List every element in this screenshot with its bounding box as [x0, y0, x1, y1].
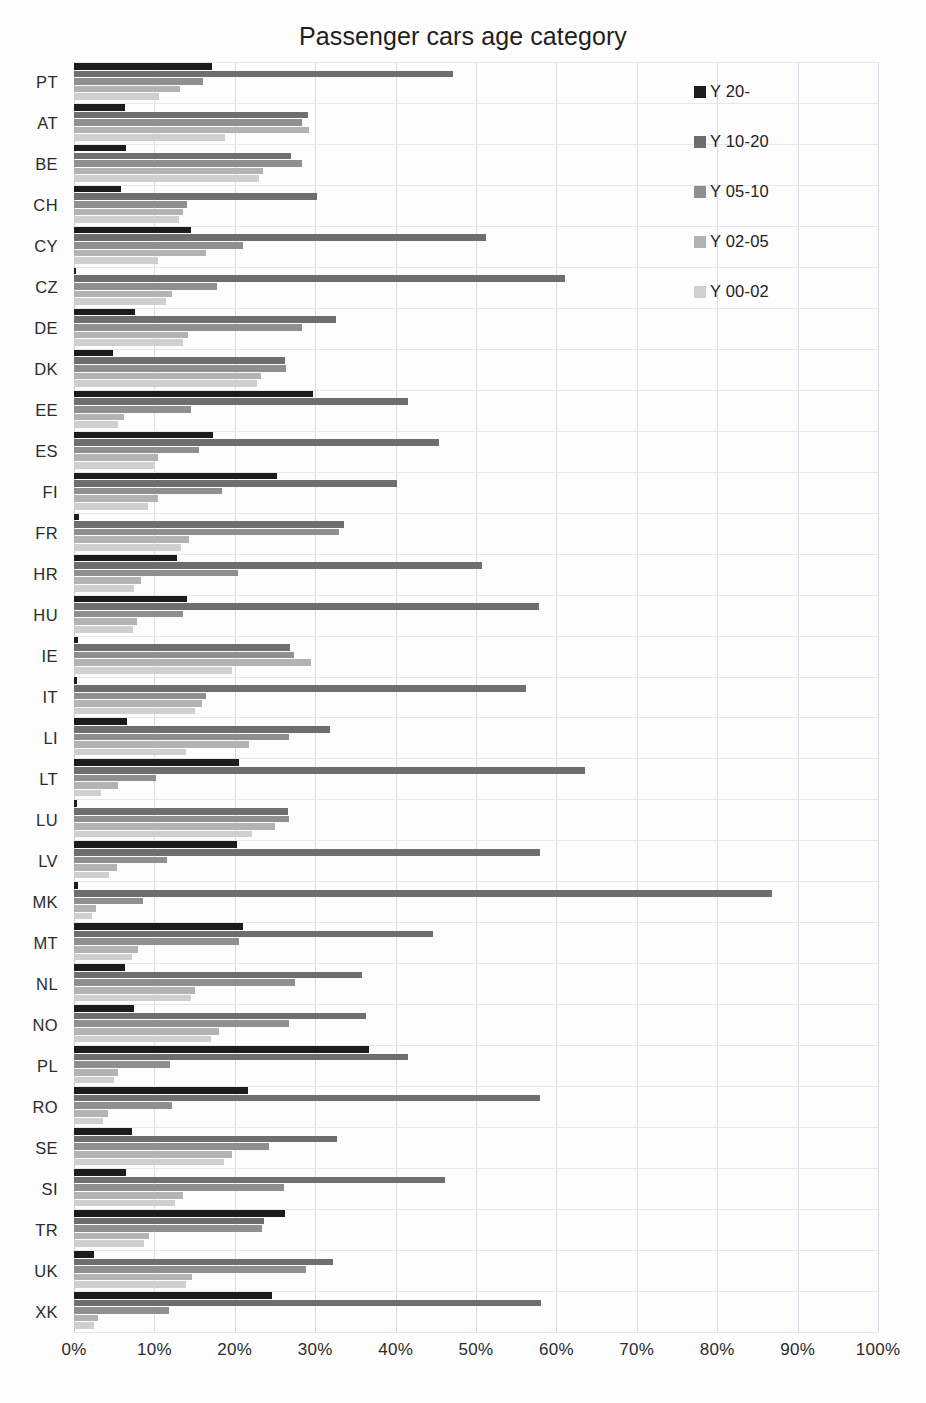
bar-HR-Y-10-20: [74, 562, 482, 569]
y-tick-label-LU: LU: [36, 810, 58, 829]
legend-item-Y-02-05[interactable]: Y 02-05: [694, 233, 874, 250]
bar-PL-Y-02-05: [74, 1069, 118, 1076]
bar-group: [74, 390, 878, 431]
bar-NO-Y-02-05: [74, 1028, 219, 1035]
bar-group: [74, 1291, 878, 1332]
bar-DE-Y-00-02: [74, 339, 183, 346]
bar-DK-Y-00-02: [74, 380, 257, 387]
x-tick-label-100%: 100%: [856, 1340, 901, 1360]
bar-group: [74, 431, 878, 472]
bar-TR-Y-10-20: [74, 1218, 264, 1225]
y-tick-label-SI: SI: [42, 1179, 58, 1198]
bar-group: [74, 595, 878, 636]
x-gridline: [878, 62, 879, 1332]
bar-group: [74, 1045, 878, 1086]
bar-XK-Y-02-05: [74, 1315, 98, 1322]
bar-DK-Y-20-: [74, 350, 113, 357]
y-tick-label-IE: IE: [42, 647, 58, 666]
bar-TR-Y-00-02: [74, 1240, 144, 1247]
bar-MK-Y-20-: [74, 882, 78, 889]
bar-PL-Y-00-02: [74, 1077, 114, 1084]
category-gridline: [74, 1332, 878, 1333]
bar-FI-Y-20-: [74, 473, 277, 480]
x-tick-label-60%: 60%: [539, 1340, 574, 1360]
bar-PT-Y-00-02: [74, 93, 159, 100]
bar-ES-Y-02-05: [74, 454, 158, 461]
bar-MK-Y-02-05: [74, 905, 96, 912]
y-tick-label-TR: TR: [35, 1220, 58, 1239]
y-tick-label-DK: DK: [34, 360, 58, 379]
bar-group: [74, 840, 878, 881]
y-tick-label-NL: NL: [36, 974, 58, 993]
legend-item-Y-05-10[interactable]: Y 05-10: [694, 183, 874, 200]
y-tick-label-IT: IT: [43, 688, 58, 707]
y-tick-label-BE: BE: [35, 155, 58, 174]
bar-NO-Y-05-10: [74, 1020, 289, 1027]
bar-FI-Y-02-05: [74, 495, 158, 502]
bar-HR-Y-20-: [74, 555, 177, 562]
bar-RO-Y-10-20: [74, 1095, 540, 1102]
bar-group: [74, 1086, 878, 1127]
bar-CY-Y-02-05: [74, 250, 206, 257]
bar-IE-Y-05-10: [74, 652, 294, 659]
bar-NO-Y-10-20: [74, 1013, 366, 1020]
bar-LU-Y-10-20: [74, 808, 288, 815]
bar-SI-Y-00-02: [74, 1200, 175, 1207]
legend-item-Y-10-20[interactable]: Y 10-20: [694, 133, 874, 150]
bar-MT-Y-02-05: [74, 946, 138, 953]
legend-label: Y 20-: [710, 82, 750, 101]
bar-DE-Y-02-05: [74, 332, 188, 339]
bar-DK-Y-05-10: [74, 365, 286, 372]
bar-XK-Y-00-02: [74, 1322, 94, 1329]
bar-UK-Y-20-: [74, 1251, 94, 1258]
bar-MT-Y-10-20: [74, 931, 433, 938]
legend-item-Y-00-02[interactable]: Y 00-02: [694, 283, 874, 300]
bar-LT-Y-02-05: [74, 782, 118, 789]
bar-CY-Y-00-02: [74, 257, 158, 264]
y-axis-labels: PTATBECHCYCZDEDKEEESFIFRHRHUIEITLILTLULV…: [0, 62, 66, 1332]
bar-LI-Y-02-05: [74, 741, 249, 748]
bar-MK-Y-05-10: [74, 898, 143, 905]
bar-group: [74, 799, 878, 840]
bar-FR-Y-00-02: [74, 544, 181, 551]
bar-IT-Y-02-05: [74, 700, 202, 707]
bar-LT-Y-10-20: [74, 767, 585, 774]
bar-FR-Y-02-05: [74, 536, 189, 543]
bar-MT-Y-20-: [74, 923, 243, 930]
bar-BE-Y-10-20: [74, 153, 291, 160]
bar-XK-Y-20-: [74, 1292, 272, 1299]
bar-SE-Y-20-: [74, 1128, 132, 1135]
bar-LU-Y-00-02: [74, 831, 252, 838]
bar-MT-Y-05-10: [74, 938, 239, 945]
bar-RO-Y-00-02: [74, 1118, 103, 1125]
bar-group: [74, 922, 878, 963]
bar-UK-Y-02-05: [74, 1274, 192, 1281]
bar-LI-Y-05-10: [74, 734, 289, 741]
bar-LV-Y-02-05: [74, 864, 117, 871]
bar-CZ-Y-20-: [74, 268, 76, 275]
y-tick-label-LI: LI: [43, 728, 58, 747]
bar-CH-Y-00-02: [74, 216, 179, 223]
bar-LV-Y-00-02: [74, 872, 109, 879]
bar-NO-Y-00-02: [74, 1036, 211, 1043]
bar-CZ-Y-02-05: [74, 291, 172, 298]
bar-HU-Y-05-10: [74, 611, 183, 618]
legend-item-Y-20-[interactable]: Y 20-: [694, 83, 874, 100]
bar-CY-Y-20-: [74, 227, 191, 234]
bar-IT-Y-00-02: [74, 708, 195, 715]
bar-NL-Y-02-05: [74, 987, 195, 994]
x-tick-label-80%: 80%: [700, 1340, 735, 1360]
bar-CY-Y-05-10: [74, 242, 243, 249]
bar-FI-Y-00-02: [74, 503, 148, 510]
bar-BE-Y-05-10: [74, 160, 302, 167]
bar-IE-Y-10-20: [74, 644, 290, 651]
bar-EE-Y-02-05: [74, 414, 124, 421]
bar-RO-Y-20-: [74, 1087, 248, 1094]
bar-group: [74, 1250, 878, 1291]
bar-XK-Y-10-20: [74, 1300, 541, 1307]
bar-PL-Y-20-: [74, 1046, 369, 1053]
bar-group: [74, 963, 878, 1004]
y-tick-label-FR: FR: [35, 524, 58, 543]
legend-label: Y 02-05: [710, 232, 769, 251]
bar-ES-Y-20-: [74, 432, 213, 439]
